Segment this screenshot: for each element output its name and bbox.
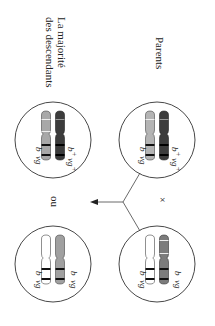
chromosome-grey <box>160 235 169 284</box>
genetics-cross-diagram: Parents La majorité des descendants × ou… <box>0 0 215 326</box>
gene-label-b-plus: b+ <box>66 147 79 157</box>
chromosome-dark <box>160 111 169 160</box>
chromosome-white <box>146 235 155 284</box>
gene-label-b: b <box>173 271 183 276</box>
cross-connector <box>97 173 140 231</box>
parents-label: Parents <box>154 37 166 69</box>
gene-label-b-plus: b+ <box>170 147 183 157</box>
offspring-1-cell <box>15 102 91 178</box>
cell-outline <box>15 102 91 178</box>
chromosome-dark <box>56 111 65 160</box>
or-label: ou <box>49 196 61 207</box>
gene-label-vg: vg <box>34 280 44 289</box>
gene-label-vg: vg <box>138 280 148 289</box>
chromosome-grey <box>56 235 65 284</box>
cell-outline <box>15 226 91 302</box>
chromosome-light <box>146 111 155 160</box>
arrow-head-icon <box>90 199 98 205</box>
gene-label-vg-plus: vg+ <box>66 158 79 172</box>
gene-label-vg: vg <box>138 156 148 165</box>
offspring-2-cell <box>15 226 91 302</box>
cross-symbol: × <box>156 197 168 203</box>
chromosome-light <box>42 111 51 160</box>
offspring-label-line2: des descendants <box>44 17 56 88</box>
offspring-label-line1: La majorité <box>56 17 68 68</box>
gene-label-b: b <box>34 271 44 276</box>
gene-label-b: b <box>138 147 148 152</box>
gene-label-b: b <box>69 271 79 276</box>
parent-2-cell <box>119 226 195 302</box>
gene-label-vg: vg <box>34 156 44 165</box>
parent-1-cell <box>119 102 195 178</box>
chromosome-white <box>42 235 51 284</box>
gene-label-vg-plus: vg+ <box>170 158 183 172</box>
gene-label-vg: vg <box>173 280 183 289</box>
cell-outline <box>119 102 195 178</box>
gene-label-b: b <box>34 147 44 152</box>
gene-label-b: b <box>138 271 148 276</box>
gene-label-vg: vg <box>69 280 79 289</box>
cell-outline <box>119 226 195 302</box>
